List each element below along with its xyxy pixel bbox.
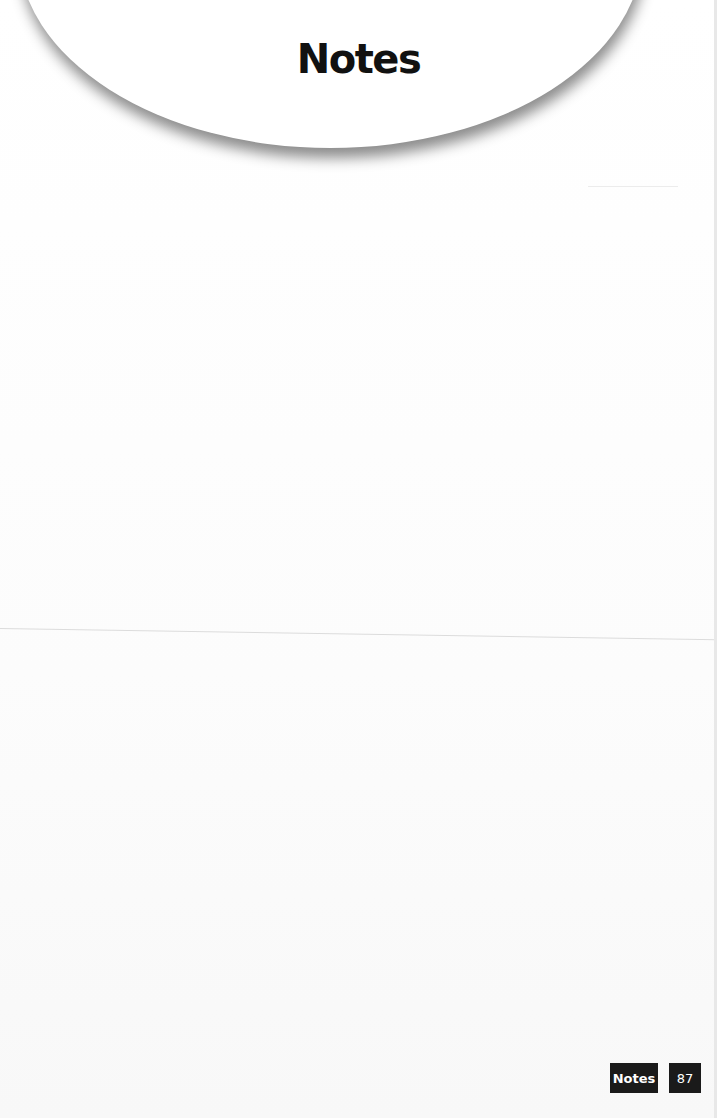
footer-section-label: Notes [610, 1063, 658, 1093]
notes-page: Notes Notes 87 [0, 0, 717, 1118]
page-number: 87 [669, 1063, 701, 1093]
divider-line [588, 186, 678, 187]
page-title: Notes [0, 36, 717, 82]
page-fold-line [0, 628, 717, 640]
